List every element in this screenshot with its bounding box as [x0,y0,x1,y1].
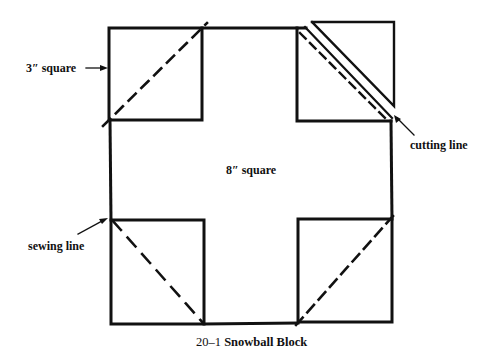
sewing-line-bottom-left [113,221,203,323]
figure-title: Snowball Block [224,335,307,349]
corner-square-bottom-right [296,216,393,325]
sewing-line-top-left [103,23,207,126]
corner-square-top-right [297,22,394,122]
corner-square-top-left [103,23,207,126]
arrow-sewing-line [78,220,104,234]
trimmed-triangle [312,22,394,106]
figure-caption: 20–1 Snowball Block [196,336,307,349]
arrowhead-sewing-line [99,218,108,224]
label-8in-square: 8″ square [226,164,276,176]
label-pointers [78,68,414,234]
sewing-line-bottom-right [296,216,393,325]
figure-number: 20–1 [196,335,221,349]
arrowhead-3in-square [100,65,108,71]
snowball-block-diagram [0,0,496,359]
sewing-line-top-right [300,33,389,122]
arrow-cutting-line [397,118,414,135]
label-3in-square: 3″ square [26,62,76,74]
cutting-line [305,27,392,118]
label-cutting-line: cutting line [410,139,468,151]
corner-square-bottom-left [111,220,204,324]
label-sewing-line: sewing line [28,240,84,252]
